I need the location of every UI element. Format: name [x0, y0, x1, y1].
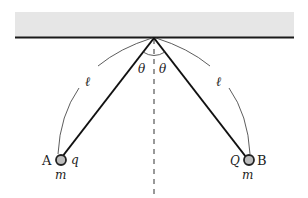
ball-b-mass: m	[242, 168, 253, 182]
ball-a-mass: m	[55, 168, 66, 182]
ball-a-name: A	[41, 153, 52, 168]
length-label-right: ℓ	[216, 74, 222, 89]
angle-label-right: θ	[159, 62, 167, 76]
string-b	[154, 38, 246, 157]
ball-b-name: B	[257, 153, 267, 168]
ball-a	[56, 155, 66, 165]
ceiling	[15, 12, 294, 37]
length-arc-right-lower	[229, 88, 250, 154]
ball-b-charge: Q	[230, 154, 240, 168]
pendulum-diagram: θ θ ℓ ℓ A q m Q B m	[0, 0, 308, 198]
ball-a-charge: q	[71, 153, 79, 167]
string-a	[62, 38, 154, 157]
length-label-left: ℓ	[85, 74, 91, 89]
length-arc-left-lower	[58, 88, 79, 154]
ball-b	[244, 155, 254, 165]
angle-label-left: θ	[138, 62, 146, 76]
